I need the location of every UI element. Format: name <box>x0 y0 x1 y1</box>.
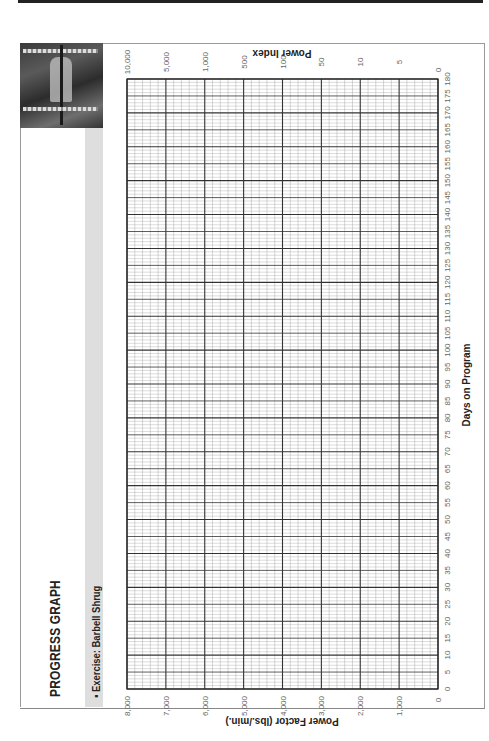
power-index-tick-label: 10,000 <box>123 49 132 74</box>
days-tick-label: 85 <box>443 396 452 405</box>
power-factor-tick-label: 1,000 <box>395 695 404 716</box>
days-tick-label: 120 <box>443 275 452 289</box>
power-index-tick-label: 1,000 <box>201 51 210 72</box>
days-tick-label: 135 <box>443 224 452 238</box>
days-tick-label: 35 <box>443 565 452 574</box>
days-tick-label: 40 <box>443 548 452 557</box>
power-factor-tick-label: 3,000 <box>317 695 326 716</box>
days-tick-label: 130 <box>443 241 452 255</box>
days-tick-label: 55 <box>443 498 452 507</box>
days-tick-labels: 0510152025303540455055606570758085909510… <box>443 72 452 691</box>
progress-chart: 0510152025303540455055606570758085909510… <box>0 0 489 741</box>
days-tick-label: 70 <box>443 447 452 456</box>
power-index-tick-label: 10 <box>356 57 365 66</box>
days-tick-label: 155 <box>443 157 452 171</box>
days-tick-label: 75 <box>443 430 452 439</box>
days-tick-label: 10 <box>443 650 452 659</box>
days-tick-label: 145 <box>443 190 452 204</box>
days-tick-label: 165 <box>443 123 452 137</box>
power-factor-tick-label: 4,000 <box>279 695 288 716</box>
power-factor-tick-label: 0 <box>434 697 443 702</box>
power-factor-tick-label: 7,000 <box>162 695 171 716</box>
days-tick-label: 65 <box>443 464 452 473</box>
days-tick-label: 5 <box>443 669 452 674</box>
days-tick-label: 45 <box>443 532 452 541</box>
power-index-tick-label: 500 <box>240 55 249 69</box>
power-factor-tick-label: 8,000 <box>123 695 132 716</box>
power-index-tick-label: 5 <box>395 59 404 64</box>
power-index-tick-label: 0 <box>434 67 443 72</box>
days-tick-label: 180 <box>443 72 452 86</box>
days-tick-label: 20 <box>443 616 452 625</box>
days-tick-label: 175 <box>443 89 452 103</box>
x-axis-title: Days on Program <box>461 343 472 426</box>
days-tick-label: 150 <box>443 173 452 187</box>
power-factor-tick-label: 5,000 <box>240 695 249 716</box>
days-tick-label: 170 <box>443 106 452 120</box>
days-tick-label: 30 <box>443 582 452 591</box>
days-tick-label: 125 <box>443 258 452 272</box>
days-tick-label: 100 <box>443 343 452 357</box>
days-tick-label: 90 <box>443 379 452 388</box>
y2-axis-title: Power Index <box>252 48 311 59</box>
days-tick-label: 50 <box>443 515 452 524</box>
days-tick-label: 15 <box>443 633 452 642</box>
days-tick-label: 25 <box>443 599 452 608</box>
days-tick-label: 140 <box>443 207 452 221</box>
days-tick-label: 60 <box>443 481 452 490</box>
power-factor-tick-labels: 01,0002,0003,0004,0005,0006,0007,0008,00… <box>123 695 443 716</box>
days-tick-label: 105 <box>443 326 452 340</box>
days-tick-label: 0 <box>443 686 452 691</box>
days-tick-label: 110 <box>443 309 452 322</box>
power-index-tick-label: 5,000 <box>162 51 171 72</box>
power-factor-tick-label: 6,000 <box>201 695 210 716</box>
days-tick-label: 115 <box>443 292 452 305</box>
days-tick-label: 160 <box>443 140 452 154</box>
y-axis-title: Power Factor (lbs./min.) <box>225 716 338 727</box>
power-factor-tick-label: 2,000 <box>356 695 365 716</box>
days-tick-label: 80 <box>443 413 452 422</box>
power-index-tick-label: 50 <box>317 57 326 66</box>
days-tick-label: 95 <box>443 362 452 371</box>
